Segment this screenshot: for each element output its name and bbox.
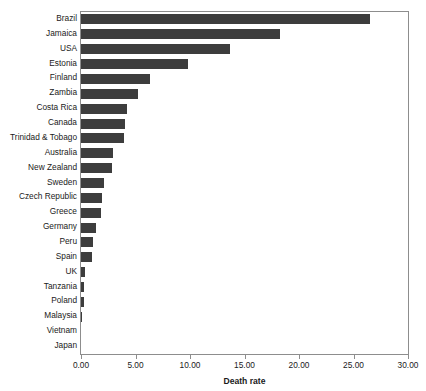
y-axis-label: Trinidad & Tobago [0, 133, 77, 142]
x-tick-label: 10.00 [180, 360, 201, 370]
y-axis-label: Vietnam [0, 326, 77, 335]
y-axis-label: Peru [0, 237, 77, 246]
bar [81, 312, 82, 322]
y-axis-label: Germany [0, 222, 77, 231]
bar [81, 163, 112, 173]
y-axis-label: Japan [0, 341, 77, 350]
bar [81, 178, 104, 188]
bar [81, 297, 84, 307]
x-tick-mark [136, 355, 137, 359]
y-axis-label: Greece [0, 207, 77, 216]
y-axis-label: Poland [0, 296, 77, 305]
x-tick-mark [190, 355, 191, 359]
bar [81, 74, 150, 84]
y-axis-label: Finland [0, 73, 77, 82]
y-axis-label: Malaysia [0, 311, 77, 320]
y-axis-label: Sweden [0, 178, 77, 187]
bar [81, 282, 84, 292]
bar-series [81, 12, 408, 354]
bar [81, 119, 125, 129]
y-axis-label: New Zealand [0, 163, 77, 172]
bar [81, 223, 96, 233]
y-axis-label: UK [0, 267, 77, 276]
bar [81, 193, 102, 203]
bar [81, 133, 124, 143]
y-axis-label: Australia [0, 148, 77, 157]
bar [81, 44, 230, 54]
y-axis-label: USA [0, 44, 77, 53]
x-tick-label: 25.00 [343, 360, 364, 370]
y-axis-label: Jamaica [0, 29, 77, 38]
x-tick-label: 15.00 [234, 360, 255, 370]
bar [81, 29, 280, 39]
bar [81, 252, 92, 262]
x-axis-title: Death rate [80, 376, 409, 386]
y-axis-label: Canada [0, 118, 77, 127]
bar [81, 14, 370, 24]
bar [81, 104, 127, 114]
y-axis-label: Zambia [0, 88, 77, 97]
x-tick-mark [299, 355, 300, 359]
y-axis-category-labels: BrazilJamaicaUSAEstoniaFinlandZambiaCost… [0, 11, 77, 355]
x-tick-mark [245, 355, 246, 359]
bar [81, 237, 93, 247]
x-tick-mark [408, 355, 409, 359]
y-axis-label: Spain [0, 252, 77, 261]
bar [81, 59, 188, 69]
x-tick-label: 5.00 [127, 360, 143, 370]
bar-chart: BrazilJamaicaUSAEstoniaFinlandZambiaCost… [0, 0, 426, 391]
y-axis-label: Tanzania [0, 282, 77, 291]
bar [81, 148, 113, 158]
y-axis-label: Brazil [0, 14, 77, 23]
x-axis-ticks: 0.005.0010.0015.0020.0025.0030.00 [80, 355, 409, 361]
x-tick-label: 20.00 [289, 360, 310, 370]
bar [81, 267, 85, 277]
y-axis-label: Czech Republic [0, 192, 77, 201]
x-tick-mark [354, 355, 355, 359]
x-tick-label: 30.00 [398, 360, 419, 370]
x-tick-mark [81, 355, 82, 359]
y-axis-label: Estonia [0, 59, 77, 68]
bar [81, 89, 138, 99]
y-axis-label: Costa Rica [0, 103, 77, 112]
x-tick-label: 0.00 [73, 360, 89, 370]
bar [81, 208, 101, 218]
